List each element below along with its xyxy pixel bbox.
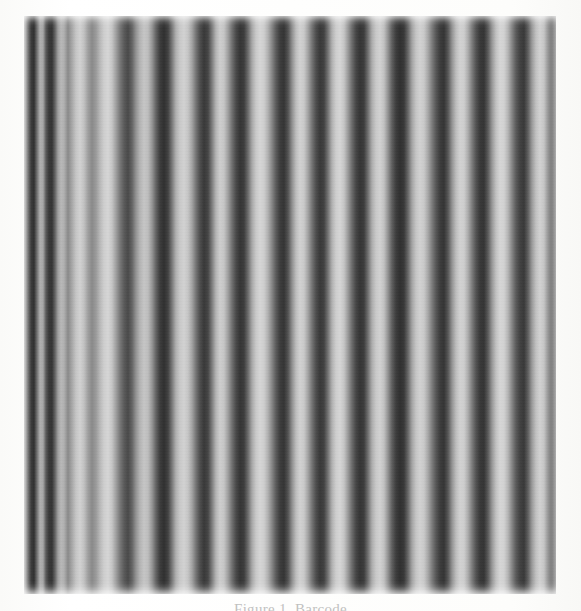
scanned-page: Figure 1. Barcode <box>0 0 581 611</box>
figure-caption: Figure 1. Barcode <box>0 600 581 611</box>
barcode-stripes <box>24 16 556 594</box>
barcode-figure <box>24 16 556 594</box>
